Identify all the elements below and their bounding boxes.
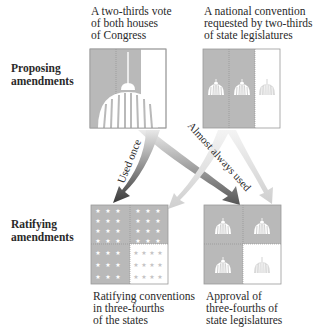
svg-text:★: ★ xyxy=(141,261,146,268)
svg-text:★: ★ xyxy=(95,217,100,224)
svg-text:★: ★ xyxy=(105,249,110,256)
svg-text:★: ★ xyxy=(115,237,120,244)
svg-text:★: ★ xyxy=(157,249,162,256)
svg-text:★: ★ xyxy=(141,249,146,256)
svg-text:★: ★ xyxy=(155,217,160,224)
svg-text:★: ★ xyxy=(135,217,140,224)
svg-text:★: ★ xyxy=(135,237,140,244)
svg-text:★: ★ xyxy=(115,249,120,256)
svg-text:★: ★ xyxy=(105,237,110,244)
svg-text:★: ★ xyxy=(115,261,120,268)
svg-text:★: ★ xyxy=(135,207,140,214)
svg-text:★: ★ xyxy=(133,249,138,256)
svg-text:★: ★ xyxy=(145,207,150,214)
svg-text:★: ★ xyxy=(133,261,138,268)
svg-text:★: ★ xyxy=(115,217,120,224)
svg-text:★: ★ xyxy=(157,261,162,268)
svg-text:★: ★ xyxy=(157,273,162,280)
svg-text:★: ★ xyxy=(145,227,150,234)
label-used-once: Used once xyxy=(115,137,143,184)
svg-text:★: ★ xyxy=(155,227,160,234)
svg-text:★: ★ xyxy=(133,273,138,280)
svg-text:★: ★ xyxy=(105,227,110,234)
svg-text:★: ★ xyxy=(95,261,100,268)
svg-text:★: ★ xyxy=(141,273,146,280)
three-domes-icon xyxy=(203,49,280,128)
stars-grid-icon: ★★★★★★ ★★★★★★ ★★★★★★ ★★★★★★ ★★★ ★★★ ★★★ … xyxy=(91,205,168,284)
svg-text:★: ★ xyxy=(105,207,110,214)
svg-text:★: ★ xyxy=(105,217,110,224)
four-domes-icon xyxy=(204,205,281,284)
svg-text:★: ★ xyxy=(145,217,150,224)
svg-text:★: ★ xyxy=(115,227,120,234)
svg-text:★: ★ xyxy=(115,207,120,214)
svg-text:★: ★ xyxy=(115,273,120,280)
svg-text:★: ★ xyxy=(95,227,100,234)
svg-text:★: ★ xyxy=(95,249,100,256)
svg-text:★: ★ xyxy=(155,207,160,214)
svg-text:★: ★ xyxy=(135,227,140,234)
svg-text:★: ★ xyxy=(149,249,154,256)
svg-text:★: ★ xyxy=(149,261,154,268)
svg-text:★: ★ xyxy=(95,207,100,214)
svg-text:★: ★ xyxy=(145,237,150,244)
svg-text:★: ★ xyxy=(105,261,110,268)
svg-text:★: ★ xyxy=(95,273,100,280)
svg-text:★: ★ xyxy=(155,237,160,244)
amendment-diagram: Used once Almost always used ★★★★★★ ★★★★… xyxy=(0,0,321,333)
capitol-dome-icon xyxy=(90,49,166,128)
svg-text:★: ★ xyxy=(95,237,100,244)
svg-text:★: ★ xyxy=(105,273,110,280)
svg-text:★: ★ xyxy=(149,273,154,280)
